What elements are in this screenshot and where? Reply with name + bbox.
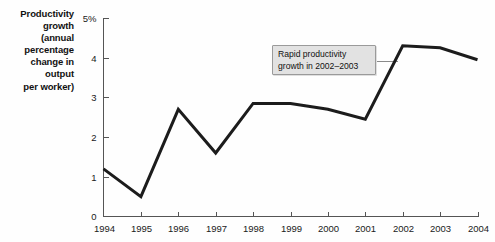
y-tick-label: 5% bbox=[83, 13, 97, 24]
y-tick-marks bbox=[104, 19, 109, 178]
plot-area: 5%43210 19941995199619971998199920002001… bbox=[0, 0, 495, 242]
x-tick-label: 2002 bbox=[393, 223, 414, 234]
x-tick-label: 2001 bbox=[355, 223, 376, 234]
x-tick-label: 2003 bbox=[430, 223, 451, 234]
x-tick-label: 1998 bbox=[243, 223, 264, 234]
x-tick-label: 1995 bbox=[131, 223, 152, 234]
annotation-line-2: growth in 2002–2003 bbox=[278, 61, 370, 73]
x-tick-label: 2004 bbox=[468, 223, 489, 234]
x-tick-label: 1999 bbox=[281, 223, 302, 234]
y-tick-label: 1 bbox=[91, 172, 96, 183]
annotation-callout: Rapid productivity growth in 2002–2003 bbox=[272, 45, 376, 75]
y-tick-label: 3 bbox=[91, 92, 96, 103]
y-tick-labels: 5%43210 bbox=[83, 13, 97, 223]
y-tick-label: 2 bbox=[91, 132, 96, 143]
annotation-line-1: Rapid productivity bbox=[278, 49, 370, 61]
x-tick-label: 1996 bbox=[168, 223, 189, 234]
productivity-growth-chart: Productivity growth (annual percentage c… bbox=[0, 0, 495, 242]
x-tick-marks bbox=[142, 212, 479, 217]
x-tick-label: 1994 bbox=[94, 223, 115, 234]
y-tick-label: 4 bbox=[91, 53, 96, 64]
y-tick-label: 0 bbox=[91, 211, 96, 222]
x-tick-label: 1997 bbox=[206, 223, 227, 234]
x-tick-labels: 1994199519961997199819992000200120022003… bbox=[94, 223, 489, 234]
x-tick-label: 2000 bbox=[318, 223, 339, 234]
